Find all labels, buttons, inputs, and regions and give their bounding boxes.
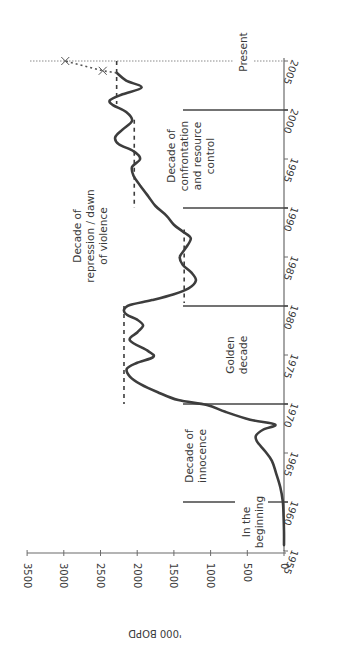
bopd-tick-label: 1500 <box>168 563 179 588</box>
oil-production-chart: 1955196019651970197519801985199019952000… <box>0 0 337 669</box>
projection-line <box>65 61 116 73</box>
era-label-line: and resource <box>191 122 203 191</box>
label-decade-of-repression: Decade ofrepression / dawnof violence <box>71 189 109 282</box>
bopd-tick-label: 1000 <box>205 563 216 588</box>
label-present: Present <box>237 32 249 71</box>
y-axis-title: '000 BOPD <box>128 628 182 639</box>
era-label-line: Present <box>237 32 249 71</box>
era-label-line: control <box>204 138 216 174</box>
chart-axes: 1955196019651970197519801985199019952000… <box>22 58 301 639</box>
label-decade-of-confrontation: Decade ofconfrontationand resourcecontro… <box>165 121 216 191</box>
era-label-line: In the <box>240 507 252 537</box>
era-label-line: innocence <box>196 429 208 483</box>
era-label-line: decade <box>237 336 249 374</box>
era-label-line: repression / dawn <box>84 189 96 282</box>
era-label-line: Decade of <box>165 129 177 183</box>
bopd-tick-label: 500 <box>242 563 253 582</box>
era-label-line: of violence <box>97 207 109 264</box>
era-label-line: beginning <box>253 496 265 548</box>
label-in-the-beginning: In thebeginning <box>240 496 265 548</box>
era-label-line: confrontation <box>178 121 190 191</box>
label-golden-decade: Goldendecade <box>224 336 249 374</box>
bopd-tick-label: 3500 <box>22 563 33 588</box>
era-label-line: Decade of <box>71 209 83 263</box>
bopd-tick-label: 0 <box>279 563 290 569</box>
bopd-tick-label: 3000 <box>58 563 69 588</box>
era-label-line: Golden <box>224 336 236 373</box>
label-decade-of-innocence: Decade ofinnocence <box>183 429 208 483</box>
era-label-line: Decade of <box>183 429 195 483</box>
bopd-tick-label: 2000 <box>132 563 143 588</box>
bopd-tick-label: 2500 <box>95 563 106 588</box>
